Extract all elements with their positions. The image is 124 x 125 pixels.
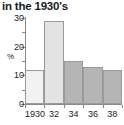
x-tick-label-34: 34: [64, 109, 83, 119]
x-tick-mark: [44, 105, 45, 108]
y-axis-unit-label: %: [7, 53, 14, 61]
x-tick-label-36: 36: [83, 109, 102, 119]
y-tick-label: 0: [19, 100, 24, 109]
x-axis-line: [25, 104, 122, 105]
bar-chart-figure: in the 1930's 0102030 193032343638 %: [0, 0, 124, 125]
y-minor-tick-mark: [22, 32, 25, 33]
chart-title: in the 1930's: [2, 0, 68, 13]
bar-1930: [25, 70, 44, 104]
x-tick-mark: [64, 105, 65, 108]
bar-34: [64, 61, 83, 104]
x-tick-mark: [83, 105, 84, 108]
y-tick-label: 20: [14, 43, 24, 52]
y-minor-tick-mark: [22, 61, 25, 62]
x-tick-label-38: 38: [103, 109, 122, 119]
y-tick-label: 30: [14, 14, 24, 23]
bar-32: [44, 21, 63, 104]
bar-36: [83, 67, 102, 104]
bar-38: [103, 70, 122, 104]
x-tick-mark: [25, 105, 26, 108]
x-tick-label-32: 32: [44, 109, 63, 119]
x-tick-mark: [122, 105, 123, 108]
x-tick-label-1930: 1930: [25, 109, 44, 119]
x-tick-mark: [103, 105, 104, 108]
y-tick-label: 10: [14, 71, 24, 80]
